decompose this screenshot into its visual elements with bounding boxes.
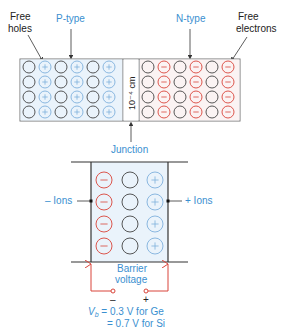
vb-germanium: Vb = 0.3 V for Ge: [88, 306, 164, 318]
free-holes-label-2: holes: [8, 23, 32, 34]
n-type-label: N-type: [176, 13, 206, 24]
vb-ge-value: = 0.3 V for Ge: [99, 306, 165, 317]
plus-terminal-icon: [144, 289, 148, 293]
barrier-left-lead: [91, 264, 111, 291]
vb-silicon: = 0.7 V for Si: [107, 318, 165, 329]
depletion-region: [91, 162, 168, 262]
junction-width-label: 10⁻⁴ cm: [127, 77, 137, 110]
top-labels: Free holes P-type N-type Free electrons: [8, 11, 277, 34]
positive-ions-label: + Ions: [185, 195, 213, 206]
free-holes-label-1: Free: [10, 11, 31, 22]
positive-ions-pointer-dot: [167, 200, 170, 203]
free-electrons-arrow: [232, 37, 247, 60]
free-holes-arrow: [28, 35, 42, 60]
minus-terminal-icon: [111, 289, 115, 293]
negative-ions-pointer-dot: [90, 200, 93, 203]
plus-terminal-label: +: [143, 294, 149, 305]
negative-ions-label: – Ions: [45, 195, 72, 206]
minus-terminal-label: –: [110, 294, 116, 305]
barrier-label-1: Barrier: [117, 263, 148, 274]
barrier-label-2: voltage: [115, 274, 148, 285]
free-electrons-label-1: Free: [238, 11, 259, 22]
barrier-right-lead: [148, 264, 168, 291]
p-type-label: P-type: [56, 13, 85, 24]
junction-label: Junction: [111, 144, 148, 155]
pn-junction-diagram: Free holes P-type N-type Free electrons …: [0, 0, 286, 333]
free-electrons-label-2: electrons: [236, 23, 277, 34]
